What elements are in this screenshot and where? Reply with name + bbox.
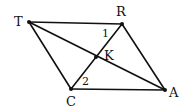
angle-label-2: 2 — [82, 75, 89, 88]
label-A: A — [168, 85, 179, 100]
label-C: C — [66, 94, 76, 109]
segment-AC — [71, 89, 165, 90]
label-T: T — [14, 14, 23, 29]
point-T — [27, 20, 31, 24]
label-R: R — [116, 4, 127, 19]
angle-label-1: 1 — [102, 27, 109, 40]
point-A — [163, 88, 167, 92]
label-K: K — [104, 48, 114, 63]
parallelogram-diagram: T R A C K 1 2 — [0, 0, 188, 112]
point-C — [69, 87, 73, 91]
point-K — [94, 55, 98, 59]
segment-TR — [29, 22, 122, 24]
point-R — [120, 22, 124, 26]
